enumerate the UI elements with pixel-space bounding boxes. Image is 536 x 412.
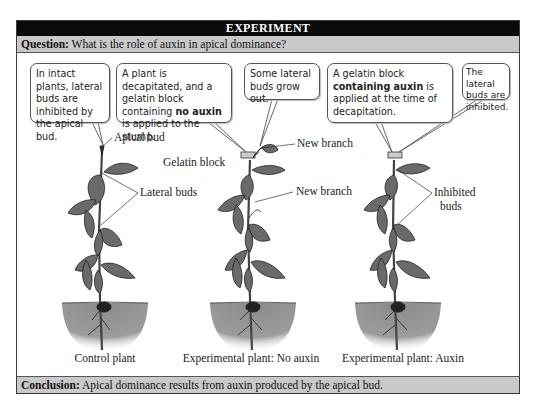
callout-auxin-block: A gelatin block containing auxin is appl… <box>327 63 453 123</box>
caption-auxin: Experimental plant: Auxin <box>333 352 473 364</box>
label-buds: buds <box>440 200 462 212</box>
label-new-branch-top: New branch <box>297 137 353 149</box>
label-new-branch-mid: New branch <box>296 185 352 197</box>
callout-buds-grow-out: Some lateral buds grow out. <box>244 63 320 100</box>
callout-no-auxin-block: A plant is decapitated, and a gelatin bl… <box>116 63 232 123</box>
callout-emphasis: no auxin <box>176 106 222 117</box>
label-apical-bud: Apical bud <box>114 131 165 143</box>
callout-intact-plants: In intact plants, lateral buds are inhib… <box>30 63 110 123</box>
caption-no-auxin: Experimental plant: No auxin <box>176 352 326 364</box>
caption-control-plant: Control plant <box>60 352 150 364</box>
label-inhibited: Inhibited <box>434 186 476 198</box>
label-lateral-buds: Lateral buds <box>140 186 197 198</box>
callout-buds-inhibited: The lateral buds are inhibited. <box>462 63 510 100</box>
callout-text: The lateral buds are inhibited. <box>466 67 508 112</box>
label-gelatin-block: Gelatin block <box>163 156 225 168</box>
callout-text: Some lateral buds grow out. <box>250 68 311 104</box>
callout-text: A gelatin block <box>333 68 404 79</box>
callout-emphasis: containing auxin <box>333 81 423 92</box>
